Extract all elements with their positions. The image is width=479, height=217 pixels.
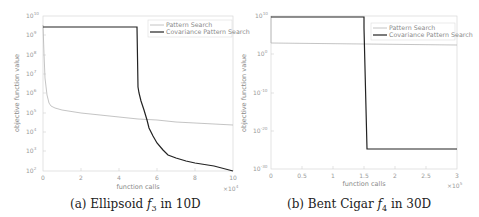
svg-text:10-30: 10-30: [253, 164, 268, 172]
svg-text:0: 0: [41, 174, 45, 181]
svg-text:109: 109: [26, 30, 37, 38]
svg-text:1: 1: [331, 172, 335, 179]
chart-a-xlabel: function calls: [116, 183, 160, 191]
chart-b-xlabel: function calls: [342, 180, 386, 188]
chart-a-ylabel: objective function value: [13, 54, 21, 132]
svg-text:103: 103: [26, 146, 37, 154]
chart-a-series-covariance-pattern-search: [43, 27, 233, 171]
svg-text:4: 4: [117, 174, 121, 181]
chart-a-x-multiplier: ×104: [223, 184, 239, 192]
chart-b-ytick-marks: [271, 54, 426, 169]
svg-text:10: 10: [229, 174, 237, 181]
legend-covariance-pattern-search: Covariance Pattern Search: [166, 28, 250, 35]
svg-text:105: 105: [26, 108, 37, 116]
svg-text:2: 2: [393, 172, 397, 179]
chart-a-ytick-marks: [43, 35, 195, 171]
svg-text:2: 2: [79, 174, 83, 181]
svg-text:102: 102: [26, 166, 37, 174]
svg-text:100: 100: [257, 49, 268, 57]
figure-canvas: 102 103 104 105 106 107 108 109 1010 0 2…: [0, 0, 479, 217]
svg-text:0: 0: [269, 172, 273, 179]
chart-b-ylabel: objective function value: [240, 54, 248, 132]
svg-text:2.5: 2.5: [421, 172, 431, 179]
svg-text:107: 107: [26, 69, 37, 77]
legend-covariance-pattern-search: Covariance Pattern Search: [389, 31, 473, 38]
svg-text:10-20: 10-20: [253, 126, 268, 134]
chart-b: 10-30 10-20 10-10 100 1010 0 0.5 1 1.5 2…: [240, 11, 473, 189]
svg-text:106: 106: [26, 88, 37, 96]
chart-b-legend: Pattern Search Covariance Pattern Search: [371, 23, 473, 40]
svg-text:0.5: 0.5: [297, 172, 307, 179]
chart-b-yticks: 10-30 10-20 10-10 100 1010: [253, 11, 268, 172]
chart-a-frame: [43, 16, 233, 171]
svg-text:104: 104: [26, 127, 37, 135]
svg-text:10-10: 10-10: [253, 88, 268, 96]
svg-text:6: 6: [155, 174, 159, 181]
caption-a: (a) Ellipsoid f3 in 10D: [70, 197, 201, 213]
chart-b-xticks: 0 0.5 1 1.5 2 2.5 3: [269, 172, 459, 179]
legend-pattern-search: Pattern Search: [166, 21, 212, 28]
svg-text:1010: 1010: [26, 11, 39, 19]
svg-text:1.5: 1.5: [359, 172, 369, 179]
chart-b-x-multiplier: ×105: [447, 181, 463, 189]
caption-b: (b) Bent Cigar f4 in 30D: [287, 197, 431, 213]
svg-text:8: 8: [193, 174, 197, 181]
svg-text:1010: 1010: [255, 11, 268, 19]
svg-text:108: 108: [26, 50, 37, 58]
chart-a-xticks: 0 2 4 6 8 10: [41, 174, 237, 181]
svg-text:3: 3: [455, 172, 459, 179]
chart-a-yticks: 102 103 104 105 106 107 108 109 1010: [26, 11, 39, 174]
chart-a: 102 103 104 105 106 107 108 109 1010 0 2…: [13, 11, 250, 192]
chart-a-legend: Pattern Search Covariance Pattern Search: [148, 20, 250, 37]
legend-pattern-search: Pattern Search: [389, 24, 435, 31]
